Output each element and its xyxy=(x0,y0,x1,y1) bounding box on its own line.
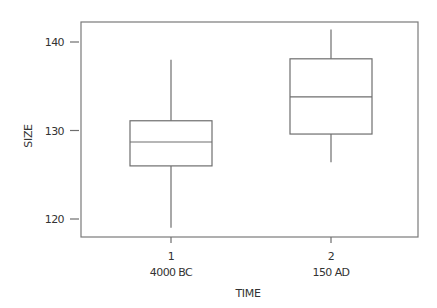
x-tick-code: 1 xyxy=(168,250,174,263)
y-axis-title: SIZE xyxy=(22,124,35,148)
x-axis: 14000 BC2150 AD xyxy=(150,237,350,279)
iqr-box xyxy=(130,121,212,166)
x-tick-label: 150 AD xyxy=(313,266,350,279)
y-axis: 120130140 xyxy=(45,36,79,226)
boxes xyxy=(130,30,372,228)
box-1 xyxy=(130,60,212,228)
boxplot-chart: 120130140 14000 BC2150 AD TIME SIZE xyxy=(0,0,437,308)
y-tick-label: 120 xyxy=(45,213,65,226)
y-tick-label: 130 xyxy=(45,125,65,138)
box-2 xyxy=(290,30,372,163)
x-axis-title: TIME xyxy=(234,287,261,300)
x-tick-code: 2 xyxy=(328,250,334,263)
x-tick-label: 4000 BC xyxy=(150,266,193,279)
plot-frame xyxy=(81,22,418,237)
y-tick-label: 140 xyxy=(45,36,65,49)
